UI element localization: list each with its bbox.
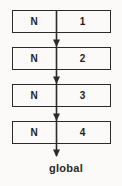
node-box: N 4 (12, 121, 111, 144)
down-arrowhead (53, 150, 60, 158)
down-arrowhead (53, 40, 60, 48)
down-arrowhead (53, 114, 60, 122)
node-value-cell: 4 (56, 122, 111, 143)
node-name-cell: N (13, 85, 56, 106)
node-value-cell: 3 (56, 85, 111, 106)
node-name-cell: N (13, 122, 56, 143)
linked-nodes-diagram: N 1 N 2 N 3 N 4 global (0, 0, 122, 186)
node-box: N 2 (12, 47, 111, 70)
down-arrowhead (53, 77, 60, 85)
node-box: N 1 (12, 10, 111, 33)
node-value-cell: 1 (56, 11, 111, 32)
node-name-cell: N (13, 48, 56, 69)
node-name-cell: N (13, 11, 56, 32)
node-value-cell: 2 (56, 48, 111, 69)
node-box: N 3 (12, 84, 111, 107)
global-label: global (36, 162, 96, 174)
